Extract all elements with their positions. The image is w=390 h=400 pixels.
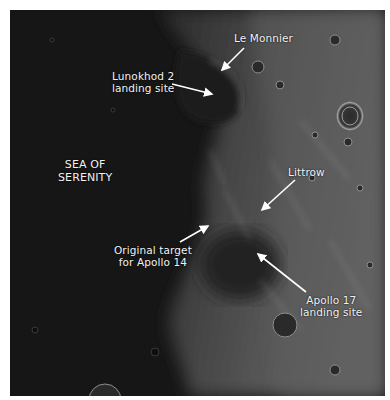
- label-lunokhod-2-landing-site: Lunokhod 2 landing site: [112, 70, 174, 94]
- label-littrow: Littrow: [288, 166, 325, 178]
- lunar-surface-photo: [10, 10, 385, 396]
- label-original-target-apollo-14: Original target for Apollo 14: [114, 244, 192, 268]
- label-apollo-17-landing-site: Apollo 17 landing site: [300, 294, 362, 318]
- lunar-terrain: [10, 10, 385, 396]
- label-sea-of-serenity: SEA OF SERENITY: [58, 158, 112, 184]
- label-le-monnier: Le Monnier: [234, 32, 293, 44]
